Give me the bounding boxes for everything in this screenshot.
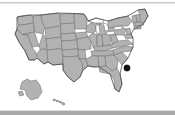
- state-arizona[interactable]: [37, 49, 48, 64]
- highlight-marker-dot[interactable]: [124, 65, 130, 71]
- state-florida[interactable]: [99, 66, 122, 92]
- state-alaska[interactable]: [20, 79, 42, 100]
- state-south-dakota[interactable]: [61, 23, 76, 34]
- state-hawaii-maui[interactable]: [59, 101, 62, 103]
- state-mississippi[interactable]: [86, 56, 99, 67]
- state-tennessee[interactable]: [91, 50, 114, 56]
- lake-michigan: [96, 25, 100, 34]
- state-wisconsin[interactable]: [86, 23, 96, 33]
- state-kansas[interactable]: [62, 40, 78, 50]
- state-missouri[interactable]: [77, 37, 91, 50]
- state-north-dakota[interactable]: [60, 14, 75, 25]
- us-map-svg[interactable]: [0, 4, 175, 110]
- lake-ontario: [114, 26, 122, 30]
- screenshot-root: United States Locator Map South Carolina…: [0, 0, 175, 115]
- state-arkansas[interactable]: [78, 50, 86, 60]
- alaska-inset[interactable]: [18, 79, 42, 100]
- state-oklahoma[interactable]: [62, 49, 79, 57]
- state-colorado[interactable]: [46, 37, 62, 50]
- state-hawaii-oahu[interactable]: [56, 100, 59, 102]
- lake-erie: [106, 31, 115, 35]
- hawaii-inset[interactable]: [53, 99, 65, 105]
- us-map-canvas[interactable]: [0, 4, 175, 110]
- state-montana[interactable]: [41, 13, 61, 29]
- state-nebraska[interactable]: [61, 33, 77, 41]
- state-alabama[interactable]: [98, 56, 106, 67]
- state-hawaii-kauai[interactable]: [53, 99, 56, 101]
- state-alaska-aleutians[interactable]: [18, 91, 24, 96]
- contiguous-states-group: [15, 9, 148, 92]
- state-hawaii-big-island[interactable]: [62, 103, 66, 106]
- bottom-band: [0, 111, 175, 115]
